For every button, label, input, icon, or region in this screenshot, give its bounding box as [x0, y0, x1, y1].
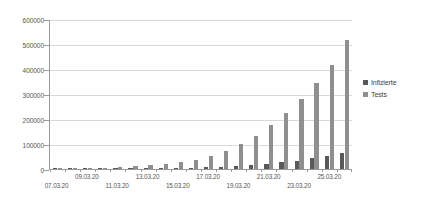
x-axis-tick-label: 13.03.20: [136, 173, 160, 181]
bar-tests: [209, 156, 213, 169]
bar-tests: [330, 65, 334, 170]
bar-group: [80, 20, 95, 169]
legend-label: Infizierte: [371, 79, 396, 86]
x-axis-tick-label: 07.03.20: [45, 182, 69, 190]
y-axis-tick-label: 100000: [0, 142, 44, 149]
y-axis-tick: [44, 20, 49, 21]
y-axis-tick-label: 200000: [0, 117, 44, 124]
bar-group: [186, 20, 201, 169]
bar-tests: [58, 168, 62, 169]
bar-group: [292, 20, 307, 169]
bar-tests: [148, 165, 152, 169]
bar-tests: [299, 99, 303, 169]
bar-tests: [164, 164, 168, 169]
bar-chart: 07.03.2009.03.2011.03.2013.03.2015.03.20…: [0, 0, 422, 207]
bar-group: [50, 20, 65, 169]
bar-infizierte: [128, 168, 132, 169]
bar-tests: [133, 166, 137, 169]
x-axis-labels: 07.03.2009.03.2011.03.2013.03.2015.03.20…: [49, 172, 352, 202]
bar-tests: [103, 168, 107, 169]
y-axis-tick: [44, 145, 49, 146]
legend: InfizierteTests: [363, 76, 421, 100]
legend-item[interactable]: Infizierte: [363, 76, 421, 88]
bar-infizierte: [68, 168, 72, 169]
y-axis-tick: [44, 170, 49, 171]
bar-group: [276, 20, 291, 169]
x-axis-tick-label: 25.03.20: [317, 173, 341, 181]
x-axis-tick-label: 19.03.20: [227, 182, 251, 190]
bar-tests: [284, 113, 288, 169]
bar-group: [231, 20, 246, 169]
legend-swatch-icon: [363, 80, 368, 85]
legend-label: Tests: [371, 91, 387, 98]
bar-tests: [224, 151, 228, 169]
bar-group: [246, 20, 261, 169]
bar-group-container: [50, 20, 352, 169]
bar-infizierte: [189, 168, 193, 170]
x-axis-tick-label: 21.03.20: [257, 173, 281, 181]
bar-tests: [314, 83, 318, 169]
bar-tests: [254, 136, 258, 169]
x-axis-tick-label: 09.03.20: [75, 173, 99, 181]
bar-tests: [179, 162, 183, 169]
bar-tests: [118, 167, 122, 169]
bar-group: [171, 20, 186, 169]
bar-infizierte: [249, 165, 253, 169]
bar-infizierte: [159, 168, 163, 169]
y-axis-tick: [44, 95, 49, 96]
y-axis-tick-label: 0: [0, 167, 44, 174]
bar-infizierte: [234, 166, 238, 169]
y-axis-tick: [44, 45, 49, 46]
bar-group: [156, 20, 171, 169]
y-axis-tick-label: 400000: [0, 67, 44, 74]
bar-group: [125, 20, 140, 169]
bar-tests: [239, 144, 243, 169]
bar-group: [216, 20, 231, 169]
bar-infizierte: [264, 164, 268, 169]
bar-tests: [345, 40, 349, 170]
bar-group: [201, 20, 216, 169]
bar-infizierte: [98, 168, 102, 169]
legend-item[interactable]: Tests: [363, 88, 421, 100]
legend-swatch-icon: [363, 92, 368, 97]
x-axis-tick-label: 23.03.20: [287, 182, 311, 190]
bar-group: [141, 20, 156, 169]
x-axis-tick-label: 17.03.20: [196, 173, 220, 181]
y-axis-tick-label: 600000: [0, 17, 44, 24]
bar-infizierte: [113, 168, 117, 169]
bar-infizierte: [83, 168, 87, 169]
bar-infizierte: [279, 162, 283, 169]
bar-group: [110, 20, 125, 169]
y-axis-tick-label: 300000: [0, 92, 44, 99]
bar-infizierte: [53, 168, 57, 169]
bar-group: [307, 20, 322, 169]
bar-infizierte: [325, 156, 329, 169]
bar-infizierte: [310, 158, 314, 169]
bar-tests: [194, 160, 198, 170]
x-axis-tick-label: 11.03.20: [106, 182, 129, 190]
bar-infizierte: [204, 167, 208, 169]
bar-group: [261, 20, 276, 169]
y-axis-tick: [44, 70, 49, 71]
plot-area: [49, 20, 352, 170]
bar-infizierte: [174, 168, 178, 169]
bar-tests: [73, 168, 77, 169]
y-axis-tick: [44, 120, 49, 121]
bar-infizierte: [219, 167, 223, 169]
x-axis-tick-label: 15.03.20: [166, 182, 190, 190]
bar-tests: [269, 125, 273, 170]
bar-group: [322, 20, 337, 169]
y-axis-tick-label: 500000: [0, 42, 44, 49]
bar-infizierte: [144, 168, 148, 169]
bar-group: [65, 20, 80, 169]
bar-group: [337, 20, 352, 169]
bar-group: [95, 20, 110, 169]
bar-infizierte: [295, 161, 299, 169]
bar-infizierte: [340, 153, 344, 169]
bar-tests: [88, 168, 92, 169]
